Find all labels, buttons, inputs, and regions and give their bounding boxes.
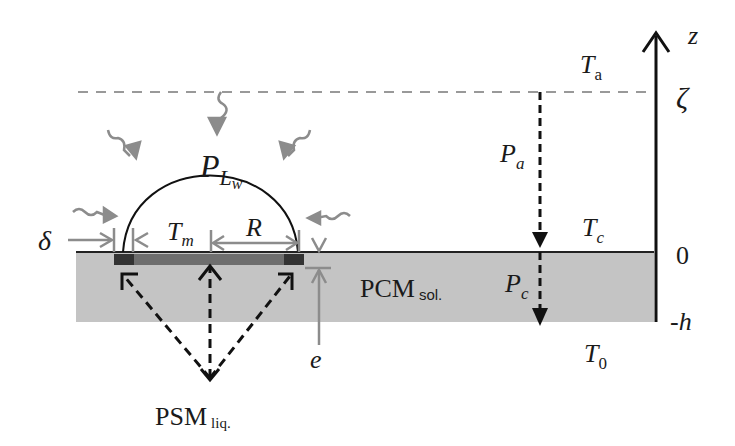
- z-axis-label: z: [687, 21, 698, 50]
- ta-label: Ta: [580, 50, 602, 84]
- r-label: R: [245, 213, 262, 242]
- tm-label: Tm: [167, 217, 194, 250]
- delta-label: δ: [38, 225, 52, 256]
- t0-label: T0: [584, 339, 607, 373]
- zeta-label: ζ: [676, 81, 690, 114]
- e-label: e: [310, 345, 322, 374]
- pa-arrowhead: [532, 232, 548, 248]
- heater-end-left: [114, 254, 134, 265]
- zero-label: 0: [676, 241, 689, 270]
- psm-label: PSMliq.: [155, 402, 231, 431]
- phase-change-diagram: z ζ 0 -h Ta Tc T0 Pa Pc PLw Tm R δ e PCM…: [0, 0, 735, 446]
- tc-label: Tc: [582, 213, 604, 247]
- plw-label: PLw: [199, 148, 243, 192]
- minus-h-label: -h: [670, 307, 692, 336]
- pa-label: Pa: [499, 139, 524, 173]
- delta-dimension: [68, 228, 148, 252]
- heater-bar: [114, 254, 304, 265]
- heater-end-right: [284, 254, 304, 265]
